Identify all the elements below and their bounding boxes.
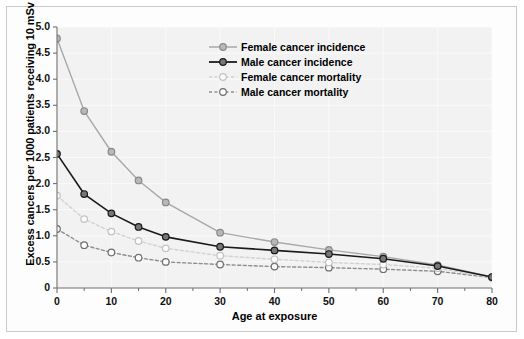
legend-label: Male cancer incidence	[241, 56, 352, 68]
legend-item[interactable]: Female cancer mortality	[208, 70, 365, 84]
x-axis-tick-label: 80	[472, 295, 512, 307]
legend-marker	[220, 89, 227, 96]
x-axis-tick-label: 10	[91, 295, 131, 307]
legend-swatch	[208, 40, 238, 54]
x-axis-tick-label: 30	[200, 295, 240, 307]
figure-container: 00.51.01.52.02.53.03.54.04.55.0010203040…	[0, 0, 524, 339]
chart-legend: Female cancer incidenceMale cancer incid…	[208, 40, 365, 100]
legend-item[interactable]: Female cancer incidence	[208, 40, 365, 54]
x-axis-tick-label: 20	[146, 295, 186, 307]
legend-label: Female cancer mortality	[241, 71, 361, 83]
legend-swatch	[208, 85, 238, 99]
legend-label: Male cancer mortality	[241, 86, 348, 98]
legend-marker	[220, 74, 227, 81]
x-axis-tick-label: 60	[363, 295, 403, 307]
y-axis-label: Excess cancers per 1000 patients receivi…	[24, 0, 36, 269]
y-axis-tick-label: 0	[0, 281, 50, 293]
x-axis-tick-label: 50	[309, 295, 349, 307]
x-axis-tick-label: 40	[255, 295, 295, 307]
x-axis-tick-label: 0	[37, 295, 77, 307]
legend-marker	[220, 44, 227, 51]
legend-swatch	[208, 70, 238, 84]
x-axis-label: Age at exposure	[57, 310, 492, 322]
legend-item[interactable]: Male cancer incidence	[208, 55, 365, 69]
legend-marker	[220, 59, 227, 66]
x-axis-tick-label: 70	[418, 295, 458, 307]
legend-label: Female cancer incidence	[241, 41, 365, 53]
legend-swatch	[208, 55, 238, 69]
legend-item[interactable]: Male cancer mortality	[208, 85, 365, 99]
